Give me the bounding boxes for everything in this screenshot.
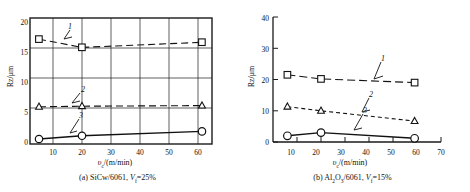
- series-a-2: [36, 93, 206, 109]
- figure-root: Rz/μm 0 5 10 15 20 10 20 30 40 50 60 υc/…: [0, 0, 470, 192]
- series-a-3: [35, 119, 205, 143]
- series-label-b-1: 1: [381, 54, 385, 63]
- series-b-3: [284, 114, 419, 142]
- series-label-a-3: 3: [78, 111, 83, 120]
- series-a-1: [36, 30, 206, 51]
- series-label-a-1: 1: [68, 22, 72, 31]
- series-label-b-2: 2: [369, 90, 373, 99]
- series-label-a-2: 2: [81, 85, 85, 94]
- chart-panel-a: Rz/μm 0 5 10 15 20 10 20 30 40 50 60 υc/…: [0, 0, 235, 192]
- plot-area-b: 1 2 3: [235, 0, 470, 192]
- axis-frame-a: [30, 18, 212, 144]
- series-b-2: [284, 98, 418, 124]
- chart-panel-b: Rz/μm 0 10 20 30 40 10 20 30 40 50 60 70…: [235, 0, 470, 192]
- series-b-1: [284, 62, 418, 86]
- series-label-b-3: 3: [362, 106, 367, 115]
- gridlines-a: [30, 18, 212, 144]
- plot-area-a: 1 2 3: [0, 0, 235, 192]
